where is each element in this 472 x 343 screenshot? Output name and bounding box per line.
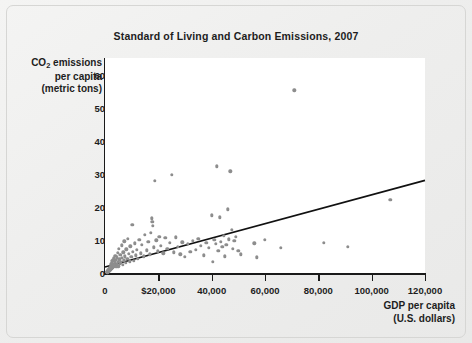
x-tick-label: 40,000: [197, 285, 226, 296]
x-tick-mark: [318, 275, 319, 281]
y-tick-label: 0: [75, 268, 105, 279]
x-tick-mark: [265, 275, 266, 281]
y-axis-ticks: 0102030405060: [67, 58, 105, 273]
x-tick-label: 120,000: [408, 285, 442, 296]
figure-container: Standard of Living and Carbon Emissions,…: [0, 0, 472, 343]
chart-title: Standard of Living and Carbon Emissions,…: [0, 30, 472, 42]
x-tick-mark: [212, 275, 213, 281]
y-tick-label: 10: [75, 234, 105, 245]
x-tick-label: $20,000: [141, 285, 175, 296]
x-axis-title-line1: GDP per capita: [383, 300, 455, 311]
plot-area: [105, 58, 425, 273]
y-tick-label: 40: [75, 135, 105, 146]
y-tick-label: 60: [75, 69, 105, 80]
x-axis-title-line2: (U.S. dollars): [393, 313, 455, 324]
y-tick-label: 50: [75, 102, 105, 113]
x-tick-mark: [425, 275, 426, 281]
x-tick-label: 80,000: [304, 285, 333, 296]
x-tick-mark: [372, 275, 373, 281]
y-tick-label: 20: [75, 201, 105, 212]
y-axis-title-co: CO: [31, 57, 46, 68]
x-tick-mark: [158, 275, 159, 281]
x-axis-ticks: 0$20,00040,00060,00080,000100,000120,000: [105, 275, 425, 301]
x-tick-label: 60,000: [250, 285, 279, 296]
x-tick-label: 100,000: [354, 285, 388, 296]
x-axis-title: GDP per capita (U.S. dollars): [250, 300, 455, 325]
y-axis-title-subscript: 2: [46, 61, 50, 70]
x-tick-label: 0: [102, 285, 107, 296]
y-tick-label: 30: [75, 168, 105, 179]
